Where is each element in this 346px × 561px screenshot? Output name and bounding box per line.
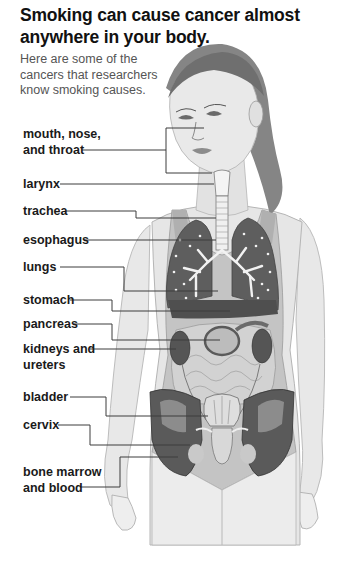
label-line-1: bone marrow [23,464,102,480]
label-esophagus: esophagus [23,232,89,248]
label-line-1: mouth, nose, [23,126,101,142]
label-bone-marrow-blood: bone marrow and blood [23,464,102,496]
left-kidney [170,331,190,365]
right-kidney [252,329,272,363]
label-trachea: trachea [23,203,67,219]
label-pancreas: pancreas [23,316,78,332]
airway [214,170,230,250]
pancreas [205,327,239,355]
label-mouth-nose-throat: mouth, nose, and throat [23,126,101,158]
label-line-1: kidneys and [23,341,95,357]
label-line-2: ureters [23,357,95,373]
page-title: Smoking can cause cancer almost anywhere… [20,4,340,48]
label-line-2: and blood [23,480,102,496]
label-bladder: bladder [23,389,68,405]
liver-stomach [168,300,278,319]
label-larynx: larynx [23,176,60,192]
label-kidneys-ureters: kidneys and ureters [23,341,95,373]
left-hand [112,495,136,530]
label-stomach: stomach [23,292,74,308]
page-subtitle: Here are some of the cancers that resear… [20,52,170,99]
right-hand [298,492,319,529]
left-arm [104,225,150,509]
label-line-2: and throat [23,142,101,158]
label-cervix: cervix [23,417,59,433]
label-lungs: lungs [23,259,56,275]
